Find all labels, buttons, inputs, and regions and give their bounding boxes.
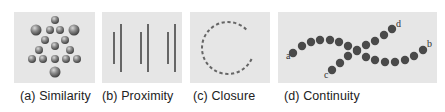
dot-curve-cd xyxy=(353,46,361,54)
dashed-arc xyxy=(202,22,252,74)
dot-curve-cd xyxy=(328,66,336,74)
sphere-small xyxy=(35,46,43,54)
sphere-small xyxy=(28,55,36,63)
sphere-small xyxy=(56,26,64,34)
dot-curve-cd xyxy=(362,41,370,49)
dot-curve-cd xyxy=(388,25,396,33)
sphere-small xyxy=(66,46,74,54)
dot-curve-ab xyxy=(401,56,409,64)
dot-curve-ab xyxy=(307,38,315,46)
curve-label-c: c xyxy=(324,69,329,80)
dot-curve-cd xyxy=(336,59,344,67)
caption-similarity: (a) Similarity xyxy=(20,89,91,103)
dot-curve-ab xyxy=(419,46,427,54)
curve-label-b: b xyxy=(427,38,432,49)
panel-proximity xyxy=(102,12,182,83)
caption-closure: (c) Closure xyxy=(193,89,255,103)
dot-curve-ab xyxy=(316,36,324,44)
dot-curve-ab xyxy=(362,53,370,61)
dot-curve-ab xyxy=(371,56,379,64)
similarity-graphic xyxy=(14,12,95,83)
dot-curve-ab xyxy=(381,58,389,66)
sphere-large xyxy=(31,25,42,36)
dot-curve-ab xyxy=(344,42,352,50)
dot-curve-ab xyxy=(326,36,334,44)
sphere-small xyxy=(73,55,81,63)
panel-continuity: abcd xyxy=(278,12,437,83)
dot-curve-ab xyxy=(391,58,399,66)
caption-continuity: (d) Continuity xyxy=(284,89,360,103)
sphere-large xyxy=(50,67,61,78)
sphere-small xyxy=(51,42,59,50)
sphere-large xyxy=(69,25,80,36)
continuity-graphic: abcd xyxy=(278,12,437,83)
dot-curve-cd xyxy=(380,31,388,39)
dot-curve-cd xyxy=(344,52,352,60)
dot-curve-ab xyxy=(298,42,306,50)
panel-similarity xyxy=(14,12,95,83)
dot-curve-ab xyxy=(410,52,418,60)
curve-label-d: d xyxy=(396,18,401,29)
sphere-small xyxy=(41,36,49,44)
sphere-small xyxy=(51,16,59,24)
sphere-small xyxy=(62,55,70,63)
sphere-small xyxy=(39,55,47,63)
sphere-small xyxy=(61,36,69,44)
panel-closure xyxy=(190,12,270,83)
sphere-small xyxy=(51,55,59,63)
closure-graphic xyxy=(190,12,270,83)
dot-curve-ab xyxy=(335,38,343,46)
dot-curve-cd xyxy=(371,37,379,45)
caption-proximity: (b) Proximity xyxy=(102,89,173,103)
curve-label-a: a xyxy=(286,50,291,61)
sphere-small xyxy=(46,26,54,34)
proximity-graphic xyxy=(102,12,182,83)
